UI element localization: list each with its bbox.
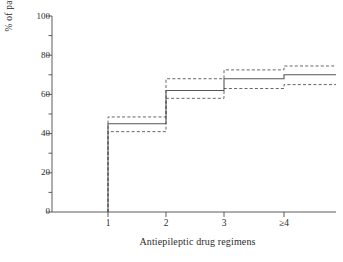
series-3-dashed-line (108, 85, 336, 212)
x-axis-ticks (108, 212, 284, 217)
series-2-dashed-line (108, 66, 336, 212)
step-chart: % of patients 100 80 60 40 20 0 1 2 3 ≥4… (0, 0, 343, 262)
series-1-solid-line (108, 75, 336, 212)
axis-lines (52, 16, 336, 212)
plot-area (0, 0, 343, 262)
series-layer (108, 66, 336, 212)
y-axis-ticks (46, 16, 52, 212)
